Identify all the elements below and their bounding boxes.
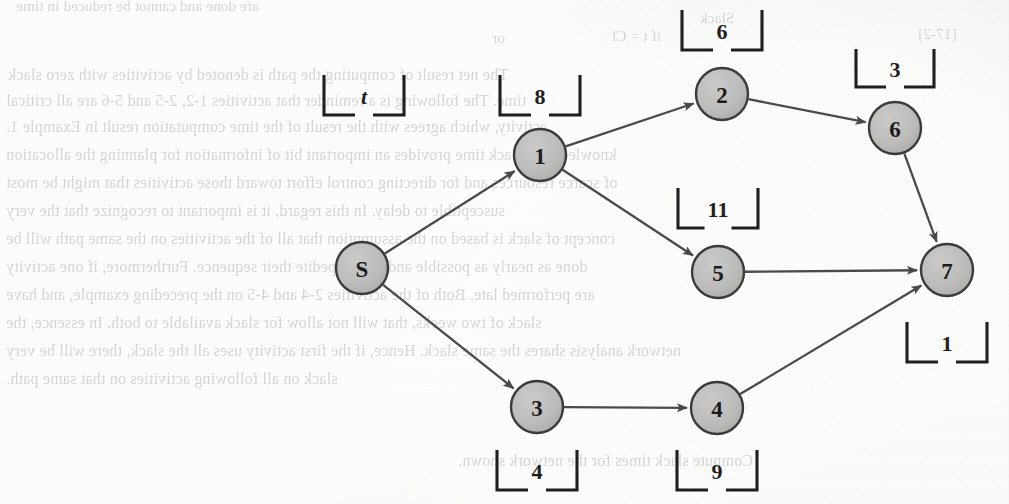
edge-S-3 (383, 285, 513, 389)
bracket-11-value: 11 (708, 197, 729, 222)
bracket-labels-group: t86311149 (324, 10, 987, 490)
bracket-3: 3 (856, 49, 934, 87)
edge-6-7 (904, 153, 936, 241)
bracket-4-value: 4 (532, 459, 543, 484)
scanned-page: are done and cannot be reduced in timeSl… (0, 0, 1009, 504)
edge-2-6 (748, 99, 865, 122)
node-S: S (336, 242, 388, 294)
bracket-8: 8 (500, 75, 580, 115)
edge-1-2 (566, 104, 694, 147)
bracket-9: 9 (677, 450, 757, 490)
bracket-t: t (324, 75, 404, 115)
node-3-label: 3 (531, 396, 543, 421)
nodes-group: S1234567 (336, 68, 973, 434)
node-2: 2 (696, 68, 748, 120)
node-7: 7 (921, 244, 973, 296)
node-4-label: 4 (711, 397, 723, 422)
edge-1-5 (563, 170, 693, 256)
node-5: 5 (692, 246, 744, 298)
edge-3-4 (564, 407, 687, 408)
node-5-label: 5 (712, 261, 724, 286)
edges-group (383, 99, 937, 408)
edge-5-7 (745, 270, 917, 272)
node-7-label: 7 (941, 259, 953, 284)
node-2-label: 2 (716, 83, 728, 108)
bracket-6: 6 (682, 10, 762, 50)
node-3: 3 (511, 381, 563, 433)
bracket-9-value: 9 (712, 459, 723, 484)
bracket-1-value: 1 (942, 331, 953, 356)
edge-S-1 (385, 171, 515, 253)
bracket-8-value: 8 (535, 84, 546, 109)
node-1: 1 (514, 129, 566, 181)
node-1-label: 1 (534, 144, 546, 169)
bracket-4: 4 (497, 450, 577, 490)
bracket-t-value: t (361, 84, 368, 109)
node-4: 4 (691, 382, 743, 434)
bracket-6-value: 6 (717, 19, 728, 44)
bracket-11: 11 (678, 188, 758, 228)
bracket-1: 1 (907, 322, 987, 362)
edge-4-7 (740, 285, 921, 394)
bracket-3-value: 3 (890, 57, 901, 82)
activity-network-diagram: t86311149 S1234567 (0, 0, 1009, 504)
node-S-label: S (356, 257, 369, 282)
node-6-label: 6 (889, 117, 901, 142)
node-6: 6 (869, 102, 921, 154)
